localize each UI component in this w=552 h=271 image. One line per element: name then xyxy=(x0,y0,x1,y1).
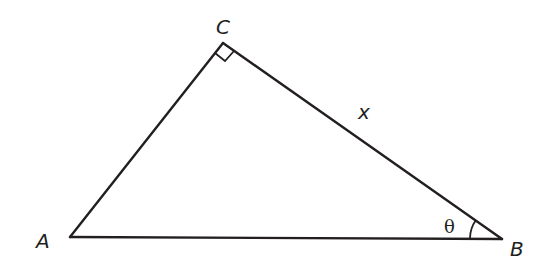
angle-arc-b xyxy=(470,220,476,238)
angle-label-theta: θ xyxy=(444,216,455,237)
side-label-x: x xyxy=(357,100,370,124)
side-cb xyxy=(223,43,502,239)
triangle-diagram: C A B x θ xyxy=(0,0,552,271)
vertex-label-b: B xyxy=(510,237,524,261)
vertex-label-c: C xyxy=(216,15,230,39)
vertex-label-a: A xyxy=(34,229,50,253)
side-ab xyxy=(70,237,502,239)
right-angle-marker xyxy=(215,51,234,61)
side-ac xyxy=(70,43,223,237)
